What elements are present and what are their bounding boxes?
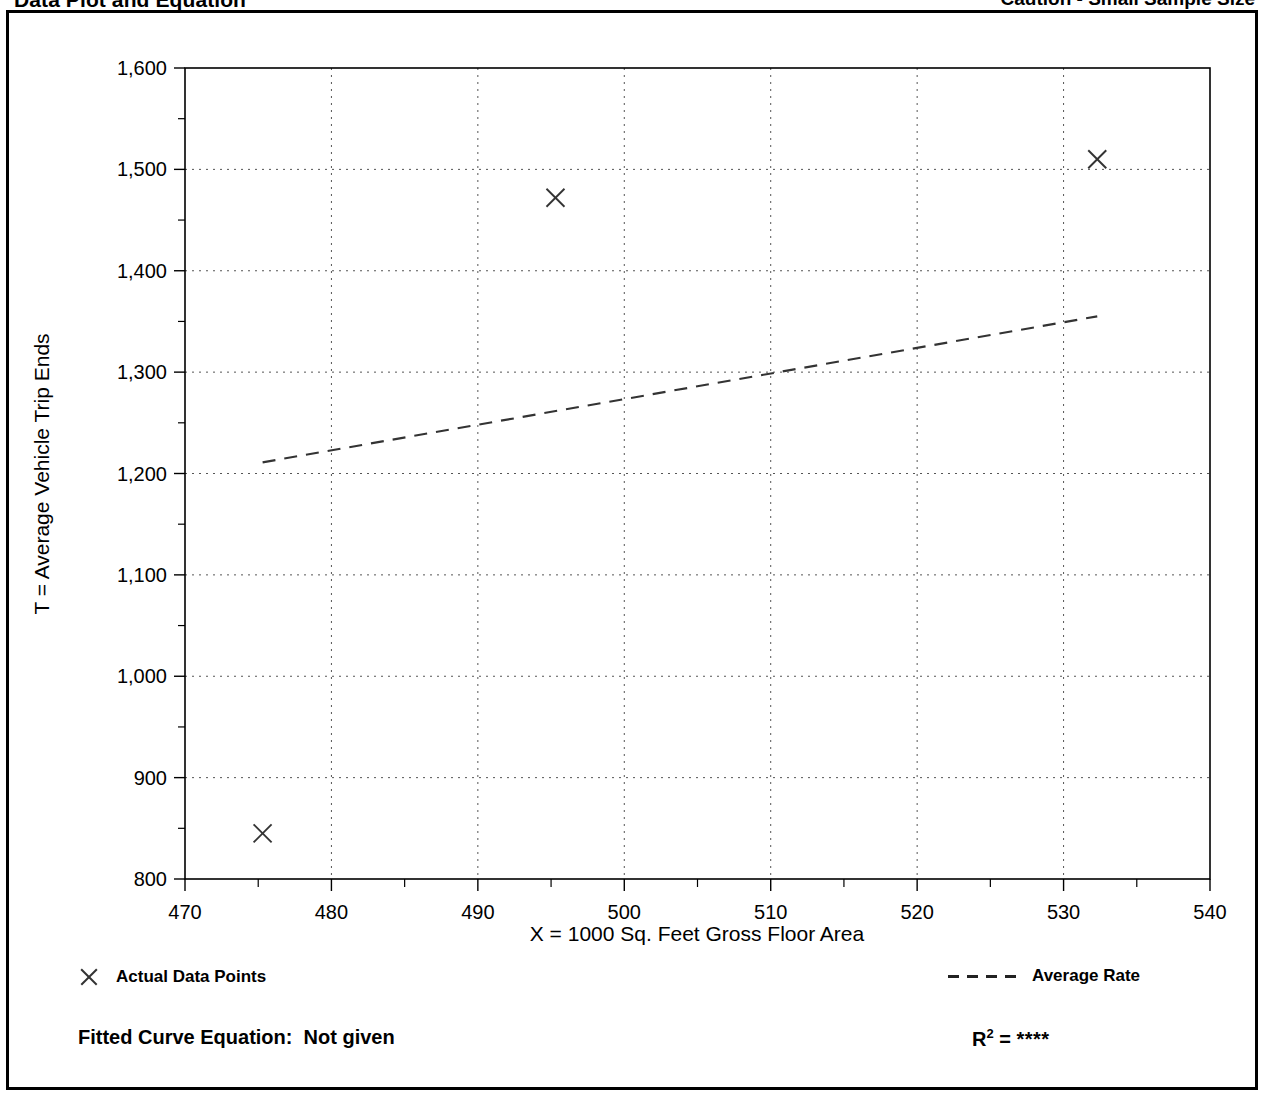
axis-ticks — [174, 68, 1210, 891]
legend-entry-data-points: Actual Data Points — [78, 966, 266, 988]
r-squared-equals: = — [999, 1028, 1011, 1050]
r-squared-label: R — [972, 1028, 986, 1050]
r-squared-exponent: 2 — [986, 1026, 993, 1041]
x-axis-title: X = 1000 Sq. Feet Gross Floor Area — [530, 922, 865, 945]
dashed-line-icon — [948, 975, 1016, 978]
fitted-curve-label: Fitted Curve Equation: — [78, 1026, 292, 1048]
legend-entry-average-rate: Average Rate — [948, 966, 1140, 986]
svg-text:470: 470 — [168, 901, 201, 923]
scatter-plot-svg: 8009001,0001,1001,2001,3001,4001,5001,60… — [0, 0, 1273, 1100]
plot-area: 8009001,0001,1001,2001,3001,4001,5001,60… — [0, 0, 1273, 1100]
svg-text:800: 800 — [134, 868, 167, 890]
svg-text:520: 520 — [900, 901, 933, 923]
svg-text:500: 500 — [608, 901, 641, 923]
fitted-curve-value: Not given — [304, 1026, 395, 1048]
svg-text:490: 490 — [461, 901, 494, 923]
svg-text:1,000: 1,000 — [117, 665, 167, 687]
legend-label-average-rate: Average Rate — [1032, 966, 1140, 986]
svg-text:540: 540 — [1193, 901, 1226, 923]
equation-row: Fitted Curve Equation: Not given R2 = **… — [0, 1018, 1252, 1068]
data-series — [254, 150, 1107, 842]
chart-page: Data Plot and Equation Caution - Small S… — [0, 0, 1273, 1100]
r-squared-value: R2 = **** — [972, 1026, 1050, 1051]
r-squared-stars: **** — [1017, 1028, 1050, 1050]
fitted-curve-equation: Fitted Curve Equation: Not given — [78, 1026, 395, 1049]
svg-text:530: 530 — [1047, 901, 1080, 923]
chart-legend: Actual Data Points Average Rate — [0, 958, 1252, 1004]
svg-text:480: 480 — [315, 901, 348, 923]
x-marker-icon — [78, 966, 100, 988]
svg-text:1,500: 1,500 — [117, 158, 167, 180]
svg-text:1,100: 1,100 — [117, 564, 167, 586]
svg-text:1,600: 1,600 — [117, 57, 167, 79]
y-axis-title: T = Average Vehicle Trip Ends — [30, 333, 53, 614]
svg-text:1,300: 1,300 — [117, 361, 167, 383]
legend-label-data-points: Actual Data Points — [116, 967, 266, 987]
gridlines — [185, 68, 1210, 879]
svg-text:900: 900 — [134, 767, 167, 789]
svg-text:1,400: 1,400 — [117, 260, 167, 282]
svg-text:510: 510 — [754, 901, 787, 923]
svg-text:1,200: 1,200 — [117, 463, 167, 485]
axis-tick-labels: 8009001,0001,1001,2001,3001,4001,5001,60… — [117, 57, 1227, 923]
